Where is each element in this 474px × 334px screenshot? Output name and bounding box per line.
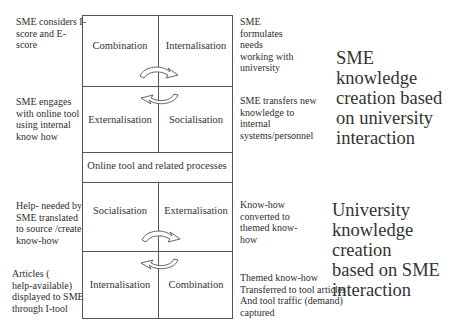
- note-line: know how: [16, 131, 79, 143]
- note-line: And tool traffic (demand): [240, 295, 346, 307]
- divider-upper-bottom: [82, 152, 233, 153]
- note-line: needs: [240, 39, 294, 51]
- heading-university-knowledge-creation: University knowledge creation based on S…: [332, 200, 474, 300]
- note-line: through I-tool: [12, 303, 84, 315]
- upper-socialisation-label: Socialisation: [158, 114, 234, 125]
- note-line: knowledge to: [240, 107, 317, 119]
- note-sme-formulates-needs: SME formulates needs working with univer…: [240, 16, 294, 74]
- note-line: know-how: [16, 235, 82, 247]
- upper-combination-label: Combination: [82, 40, 158, 51]
- divider-lower-vertical: [158, 182, 159, 319]
- note-line: internal: [240, 118, 317, 130]
- heading-line: University: [332, 200, 474, 220]
- note-line: score: [16, 39, 86, 51]
- note-line: university: [240, 62, 294, 74]
- note-help-needed: Help- needed by SME translated to source…: [16, 200, 82, 246]
- note-line: formulates: [240, 28, 294, 40]
- note-line: to source /create: [16, 223, 82, 235]
- lower-internalisation-label: Internalisation: [82, 279, 158, 290]
- heading-line: on university: [336, 108, 442, 128]
- divider-upper-vertical: [158, 15, 159, 152]
- note-line: captured: [240, 307, 346, 319]
- note-line: displayed to SME: [12, 291, 84, 303]
- note-line: using internal: [16, 119, 79, 131]
- heading-sme-knowledge-creation: SME knowledge creation based on universi…: [336, 48, 442, 148]
- upper-internalisation-label: Internalisation: [158, 40, 234, 51]
- note-line: how: [240, 234, 298, 246]
- note-sme-engages-online-tool: SME engages with online tool using inter…: [16, 96, 79, 142]
- online-tool-band-label: Online tool and related processes: [82, 160, 232, 171]
- note-sme-transfers-knowledge: SME transfers new knowledge to internal …: [240, 95, 317, 141]
- note-line: with online tool: [16, 108, 79, 120]
- note-line: working with: [240, 51, 294, 63]
- note-line: SME considers I-: [16, 16, 86, 28]
- note-line: Themed know-how: [240, 272, 346, 284]
- note-line: SME transfers new: [240, 95, 317, 107]
- lower-externalisation-label: Externalisation: [158, 205, 234, 216]
- heading-line: knowledge: [336, 68, 442, 88]
- heading-line: interaction: [336, 128, 442, 148]
- note-themed-know-how: Themed know-how Transferred to tool arti…: [240, 272, 346, 318]
- heading-line: interaction: [332, 280, 474, 300]
- note-line: Help- needed by: [16, 200, 82, 212]
- heading-line: creation based: [336, 88, 442, 108]
- note-articles-displayed: Articles ( help-available) displayed to …: [12, 268, 84, 314]
- note-line: Transferred to tool articles: [240, 284, 346, 296]
- heading-line: based on SME: [332, 260, 474, 280]
- lower-socialisation-label: Socialisation: [82, 205, 158, 216]
- note-line: SME: [240, 16, 294, 28]
- note-line: score and E-: [16, 28, 86, 40]
- upper-externalisation-label: Externalisation: [82, 114, 158, 125]
- curved-arrow-right-icon: [140, 228, 184, 246]
- note-line: themed know-: [240, 222, 298, 234]
- curved-arrow-right-icon: [138, 64, 182, 82]
- note-line: SME translated: [16, 212, 82, 224]
- curved-arrow-left-icon: [138, 257, 182, 273]
- note-line: SME engages: [16, 96, 79, 108]
- curved-arrow-left-icon: [138, 92, 182, 108]
- note-line: Know-how: [240, 199, 298, 211]
- lower-combination-label: Combination: [158, 279, 234, 290]
- heading-line: SME: [336, 48, 442, 68]
- note-line: converted to: [240, 211, 298, 223]
- heading-line: knowledge creation: [332, 220, 474, 260]
- note-sme-considers-score: SME considers I- score and E- score: [16, 16, 86, 51]
- note-line: systems/personnel: [240, 130, 317, 142]
- note-line: help-available): [12, 280, 84, 292]
- note-know-how-converted: Know-how converted to themed know- how: [240, 199, 298, 245]
- note-line: Articles (: [12, 268, 84, 280]
